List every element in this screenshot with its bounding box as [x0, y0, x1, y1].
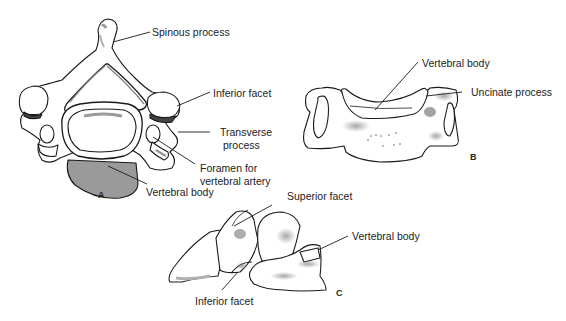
label-vertebral-body-b: Vertebral body — [422, 57, 490, 69]
label-vertebral-body-c: Vertebral body — [352, 230, 420, 242]
label-vertebral-body-a: Vertebral body — [146, 186, 214, 198]
view-label-a: A — [98, 190, 105, 200]
view-c-drawing — [169, 210, 326, 291]
vertebra-illustration — [0, 0, 566, 321]
label-transverse-process-line2: process — [223, 139, 260, 151]
label-inferior-facet-a: Inferior facet — [213, 87, 271, 99]
view-b-drawing — [304, 87, 459, 162]
label-superior-facet: Superior facet — [287, 190, 352, 202]
label-foramen-line1: Foramen for — [200, 162, 257, 174]
view-label-c: C — [336, 288, 343, 298]
label-inferior-facet-c: Inferior facet — [195, 295, 253, 307]
label-uncinate-process: Uncinate process — [471, 86, 552, 98]
label-transverse-process-line1: Transverse — [220, 126, 272, 138]
label-spinous-process: Spinous process — [152, 26, 230, 38]
view-a-drawing — [19, 19, 180, 198]
view-label-b: B — [470, 152, 477, 162]
